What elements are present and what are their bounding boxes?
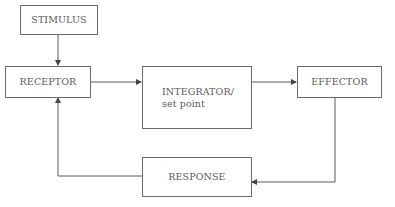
arrow-response-to-receptor bbox=[58, 98, 142, 176]
integrator-label: INTEGRATOR/ set point bbox=[162, 86, 234, 110]
effector-box: EFFECTOR bbox=[297, 66, 382, 98]
receptor-box: RECEPTOR bbox=[5, 66, 91, 98]
response-box: RESPONSE bbox=[142, 157, 252, 197]
feedback-loop-diagram: STIMULUS RECEPTOR INTEGRATOR/ set point … bbox=[0, 0, 395, 207]
response-label: RESPONSE bbox=[168, 171, 225, 183]
stimulus-box: STIMULUS bbox=[20, 5, 98, 35]
arrow-effector-to-response bbox=[252, 97, 335, 182]
stimulus-label: STIMULUS bbox=[31, 14, 86, 26]
integrator-box: INTEGRATOR/ set point bbox=[142, 66, 252, 129]
effector-label: EFFECTOR bbox=[311, 76, 367, 88]
receptor-label: RECEPTOR bbox=[20, 76, 77, 88]
